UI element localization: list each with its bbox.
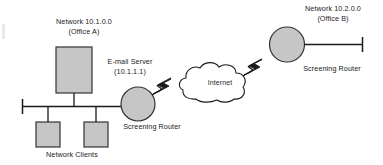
label-screening-router-right: Screening Router [288,64,376,73]
network-diagram: Network 10.1.0.0 (Office A) Network 10.2… [0,0,383,165]
label-network-office-a-network: Network 10.1.0.0 [34,17,134,27]
label-email-server-name: E-mail Server [95,57,165,67]
label-network-office-a-office: (Office A) [34,27,134,37]
label-network-office-b-network: Network 10.2.0.0 [285,4,381,14]
label-network-clients: Network Clients [32,150,112,159]
label-email-server: E-mail Server (10.1.1.1) [95,57,165,77]
node-email-server [56,47,92,93]
bus-office-a [22,99,122,114]
node-screening-router-left [121,87,155,121]
node-network-client-2 [84,122,108,147]
label-network-office-b: Network 10.2.0.0 (Office B) [285,4,381,24]
node-screening-router-right [270,27,305,62]
bus-office-b [304,37,363,52]
link-left-router-to-internet [153,79,171,94]
label-network-office-a: Network 10.1.0.0 (Office A) [34,17,134,37]
label-screening-router-left: Screening Router [108,122,196,131]
node-network-client-1 [36,122,60,147]
label-internet-cloud: Internet [190,78,250,87]
label-email-server-address: (10.1.1.1) [95,67,165,77]
label-network-office-b-office: (Office B) [285,14,381,24]
